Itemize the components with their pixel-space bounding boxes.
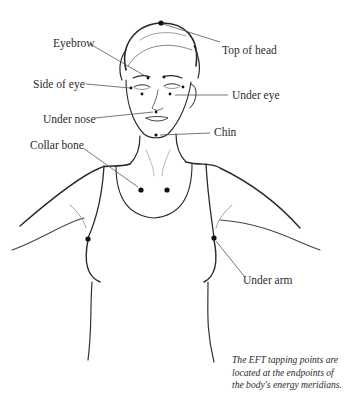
label-chin: Chin bbox=[214, 127, 236, 139]
point-side-of-eye-right bbox=[182, 86, 185, 89]
figure-illustration bbox=[0, 0, 346, 403]
body-outline bbox=[12, 23, 320, 362]
caption-line-3: the body's energy meridians. bbox=[232, 379, 344, 392]
label-under-eye: Under eye bbox=[232, 90, 280, 102]
point-under-nose bbox=[155, 111, 158, 114]
point-under-eye-left bbox=[141, 93, 144, 96]
label-top-of-head: Top of head bbox=[222, 45, 277, 57]
point-side-of-eye-left bbox=[130, 87, 133, 90]
point-collar-bone-right bbox=[164, 187, 169, 192]
label-under-nose: Under nose bbox=[43, 114, 96, 126]
caption-line-1: The EFT tapping points are bbox=[232, 354, 344, 367]
point-eyebrow-right bbox=[163, 76, 166, 79]
label-eyebrow: Eyebrow bbox=[53, 38, 95, 50]
label-side-of-eye: Side of eye bbox=[33, 79, 85, 91]
caption: The EFT tapping points are located at th… bbox=[232, 354, 344, 392]
point-collar-bone-left bbox=[138, 187, 143, 192]
label-collar-bone: Collar bone bbox=[30, 140, 84, 152]
point-under-arm-left bbox=[85, 236, 90, 241]
point-under-eye-right bbox=[169, 93, 172, 96]
point-eyebrow-left bbox=[147, 77, 150, 80]
point-under-arm-right bbox=[211, 235, 216, 240]
point-chin bbox=[154, 133, 157, 136]
point-top-of-head bbox=[158, 20, 163, 25]
pointer-lines bbox=[83, 24, 244, 276]
label-under-arm: Under arm bbox=[243, 275, 293, 287]
caption-line-2: located at the endpoints of bbox=[232, 367, 344, 380]
